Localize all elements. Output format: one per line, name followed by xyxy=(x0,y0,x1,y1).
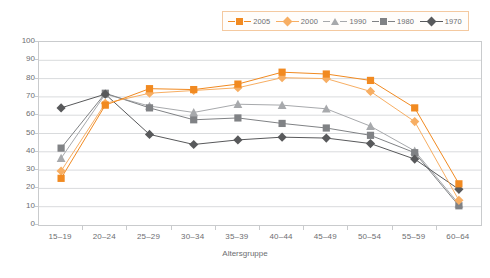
x-tick-mark-2 xyxy=(126,226,127,230)
data-point-2005-60–64 xyxy=(455,180,462,187)
data-point-2000-15–19 xyxy=(57,166,66,175)
legend-line-1980 xyxy=(372,21,379,22)
y-tick-label-70: 70 xyxy=(5,92,35,100)
x-tick-label-10: 60–64 xyxy=(435,233,481,241)
series-line-1980 xyxy=(61,93,459,206)
x-tick-label-8: 50–54 xyxy=(347,233,393,241)
x-tick-mark-8 xyxy=(392,226,393,230)
x-tick-mark-6 xyxy=(303,226,304,230)
data-point-1980-40–44 xyxy=(279,120,286,127)
data-point-2005-45–49 xyxy=(323,70,330,77)
data-point-1970-40–44 xyxy=(278,133,287,142)
data-point-1970-15–19 xyxy=(57,103,66,112)
data-point-2005-55–59 xyxy=(411,104,418,111)
legend-line2-1990 xyxy=(340,21,347,22)
legend-diamond-marker-icon xyxy=(282,16,292,26)
y-tick-label-40: 40 xyxy=(5,147,35,155)
data-point-2005-40–44 xyxy=(279,69,286,76)
y-tick-label-80: 80 xyxy=(5,74,35,82)
y-tick-label-90: 90 xyxy=(5,55,35,63)
x-tick-label-1: 15–19 xyxy=(37,233,83,241)
x-tick-label-5: 35–39 xyxy=(214,233,260,241)
legend-square-marker-icon xyxy=(236,18,243,25)
x-tick-label-4: 30–34 xyxy=(170,233,216,241)
y-tick-label-50: 50 xyxy=(5,129,35,137)
data-point-1980-25–29 xyxy=(146,104,153,111)
x-tick-label-7: 45–49 xyxy=(302,233,348,241)
x-tick-label-6: 40–44 xyxy=(258,233,304,241)
x-tick-mark-4 xyxy=(215,226,216,230)
x-tick-mark-3 xyxy=(171,226,172,230)
data-point-2005-35–39 xyxy=(234,80,241,87)
data-point-1990-50–54 xyxy=(366,122,375,130)
legend-label-2005: 2005 xyxy=(252,17,271,26)
data-point-1970-30–34 xyxy=(189,140,198,149)
legend-triangle-marker-icon xyxy=(331,18,339,25)
y-tick-label-20: 20 xyxy=(5,183,35,191)
data-point-1970-50–54 xyxy=(366,139,375,148)
legend-diamond-marker-icon xyxy=(426,16,436,26)
data-point-1980-45–49 xyxy=(323,124,330,131)
data-point-1980-30–34 xyxy=(190,116,197,123)
data-point-1990-15–19 xyxy=(57,154,66,162)
legend-item-1970[interactable]: 1970 xyxy=(420,17,463,26)
series-layer xyxy=(39,42,481,225)
data-point-2005-30–34 xyxy=(190,86,197,93)
data-point-1970-45–49 xyxy=(322,133,331,142)
legend-label-2000: 2000 xyxy=(300,17,319,26)
data-point-2000-55–59 xyxy=(410,117,419,126)
legend-item-2000[interactable]: 2000 xyxy=(276,17,319,26)
data-point-1980-35–39 xyxy=(234,114,241,121)
data-point-2005-50–54 xyxy=(367,77,374,84)
data-point-2005-15–19 xyxy=(58,175,65,182)
line-chart: 20052000199019801970 1009080706050403020… xyxy=(0,0,490,278)
x-tick-label-2: 20–24 xyxy=(81,233,127,241)
legend-line-1990 xyxy=(323,21,330,22)
data-point-2000-50–54 xyxy=(366,87,375,96)
legend-label-1990: 1990 xyxy=(348,17,367,26)
data-point-1980-50–54 xyxy=(367,132,374,139)
legend-line2-2005 xyxy=(244,21,251,22)
legend-line2-1980 xyxy=(388,21,395,22)
legend-item-1990[interactable]: 1990 xyxy=(323,17,367,26)
y-tick-label-0: 0 xyxy=(5,220,35,228)
legend-label-1970: 1970 xyxy=(444,17,463,26)
x-tick-label-3: 25–29 xyxy=(126,233,172,241)
legend-item-1980[interactable]: 1980 xyxy=(372,17,415,26)
legend-square-marker-icon xyxy=(380,18,387,25)
y-tick-label-100: 100 xyxy=(5,37,35,45)
y-tick-label-30: 30 xyxy=(5,165,35,173)
chart-legend: 20052000199019801970 xyxy=(222,11,469,31)
data-point-1980-15–19 xyxy=(58,145,65,152)
x-tick-mark-1 xyxy=(82,226,83,230)
y-tick-label-60: 60 xyxy=(5,110,35,118)
x-tick-mark-7 xyxy=(347,226,348,230)
x-tick-mark-9 xyxy=(436,226,437,230)
data-point-2005-25–29 xyxy=(146,85,153,92)
legend-line-2005 xyxy=(228,21,235,22)
series-line-2005 xyxy=(61,72,459,184)
x-axis-title: Altersgruppe xyxy=(0,249,490,258)
x-tick-mark-5 xyxy=(259,226,260,230)
data-point-2005-20–24 xyxy=(102,102,109,109)
y-tick-label-10: 10 xyxy=(5,202,35,210)
legend-label-1980: 1980 xyxy=(396,17,415,26)
plot-area xyxy=(38,41,482,226)
data-point-1970-35–39 xyxy=(233,135,242,144)
x-tick-label-9: 55–59 xyxy=(391,233,437,241)
legend-item-2005[interactable]: 2005 xyxy=(228,17,271,26)
